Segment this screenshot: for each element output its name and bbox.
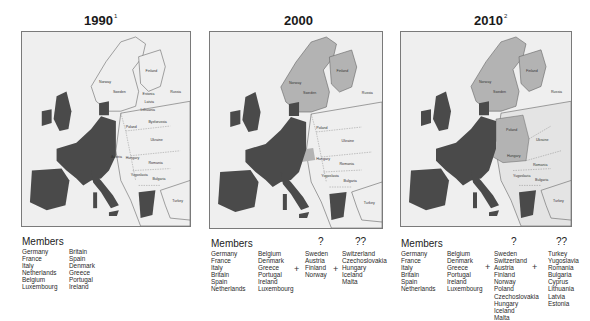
member-item: Germany bbox=[401, 250, 435, 257]
map-label-poland: Poland bbox=[316, 126, 327, 130]
member-item: Denmark bbox=[69, 262, 95, 269]
candidate-item: Latvia bbox=[548, 293, 579, 300]
member-item: Denmark bbox=[447, 257, 483, 264]
members-column-2: Belgium Denmark Greece Portugal Ireland … bbox=[447, 250, 483, 293]
denmark-member-shape bbox=[289, 102, 299, 116]
map-label-norway: Norway bbox=[479, 80, 491, 84]
panel-title-2000: 2000 bbox=[284, 13, 313, 28]
map-label-russia: Russia bbox=[170, 90, 181, 94]
group-qq-heading: ?? bbox=[556, 238, 567, 245]
plus-sign: + bbox=[485, 264, 490, 271]
candidate-item: Yugoslavia bbox=[548, 257, 579, 264]
member-item: Luxembourg bbox=[258, 285, 294, 292]
map-label-russia: Russia bbox=[362, 91, 373, 95]
member-item: Greece bbox=[258, 264, 294, 271]
map-svg-2000: Norway Sweden Finland Russia Poland Ukra… bbox=[210, 32, 382, 228]
sardinia-shape bbox=[283, 194, 287, 210]
candidate-item: Finland bbox=[494, 271, 539, 278]
denmark-member-shape bbox=[479, 101, 489, 115]
legend-2000: Members Germany France Italy Britain Spa… bbox=[211, 238, 253, 249]
candidate-item: Norway bbox=[305, 271, 328, 278]
member-item: Belgium bbox=[447, 250, 483, 257]
footnote-marker: 1 bbox=[114, 13, 117, 19]
ireland-member-shape bbox=[421, 109, 431, 126]
group-q-list: Sweden Austria Finland Norway bbox=[305, 250, 328, 278]
candidate-item: Czechoslovakia bbox=[494, 293, 539, 300]
britain-member-shape bbox=[54, 91, 72, 131]
members-column-2: Belgium Denmark Greece Portugal Ireland … bbox=[258, 250, 294, 293]
members-column-1: Germany France Italy Britain Spain Nethe… bbox=[401, 250, 435, 293]
candidate-item: Hungary bbox=[342, 264, 387, 271]
member-item: France bbox=[401, 257, 435, 264]
group-q-heading: ? bbox=[511, 238, 517, 245]
candidate-item: Estonia bbox=[548, 300, 579, 307]
year-label: 1990 bbox=[84, 13, 113, 28]
candidate-item: Sweden bbox=[494, 250, 539, 257]
member-item: Ireland bbox=[258, 278, 294, 285]
member-item: Germany bbox=[211, 250, 245, 257]
map-label-romania: Romania bbox=[148, 161, 162, 165]
member-item: Ireland bbox=[69, 283, 95, 290]
legend-1990: Members Germany France Italy Netherlands… bbox=[22, 236, 64, 247]
scandinavia-shape bbox=[471, 37, 526, 111]
candidate-item: Switzerland bbox=[342, 250, 387, 257]
denmark-member-shape bbox=[99, 101, 109, 115]
panel-title-2010: 20102 bbox=[474, 13, 507, 28]
candidate-item: Turkey bbox=[548, 250, 579, 257]
legend-2010: Members Germany France Italy Britain Spa… bbox=[401, 238, 443, 249]
candidate-item: Poland bbox=[494, 285, 539, 292]
map-label-bulgaria: Bulgaria bbox=[344, 179, 357, 183]
iberia-member-shape bbox=[30, 169, 70, 211]
candidate-item: Romania bbox=[548, 264, 579, 271]
iberia-member-shape bbox=[218, 170, 258, 212]
map-label-latvia: Latvia bbox=[145, 100, 154, 104]
map-label-hungary: Hungary bbox=[507, 154, 521, 158]
map-label-sweden: Sweden bbox=[113, 90, 126, 94]
map-svg-2010: Norway Sweden Finland Russia Poland Ukra… bbox=[401, 32, 571, 226]
member-item: Britain bbox=[211, 271, 245, 278]
candidate-item: Lithuania bbox=[548, 285, 579, 292]
map-label-yugoslavia: Yugoslavia bbox=[321, 174, 339, 178]
sicily-shape bbox=[109, 210, 119, 216]
member-item: Netherlands bbox=[22, 269, 58, 276]
map-label-austria: Austria bbox=[111, 155, 122, 159]
group-q-heading: ? bbox=[318, 238, 324, 245]
member-item: Germany bbox=[22, 248, 58, 255]
group-qq-list: Turkey Yugoslavia Romania Bulgaria Cypru… bbox=[548, 250, 579, 307]
plus-sign: + bbox=[532, 264, 537, 271]
map-label-ukraine: Ukraine bbox=[536, 138, 548, 142]
map-label-lithuania: Lithuania bbox=[141, 108, 155, 112]
member-item: Portugal bbox=[258, 271, 294, 278]
map-label-hungary: Hungary bbox=[126, 156, 140, 160]
member-item: France bbox=[211, 257, 245, 264]
member-item: Britain bbox=[69, 248, 95, 255]
group-qq-heading: ?? bbox=[355, 238, 366, 245]
member-item: Denmark bbox=[258, 257, 294, 264]
map-label-byelorussia: Byelorussia bbox=[148, 120, 166, 124]
map-label-sweden: Sweden bbox=[303, 91, 316, 95]
britain-member-shape bbox=[433, 91, 451, 131]
member-item: Luxembourg bbox=[447, 285, 483, 292]
map-label-poland: Poland bbox=[506, 128, 517, 132]
map-label-yugoslavia: Yugoslavia bbox=[131, 173, 148, 177]
year-label: 2010 bbox=[474, 13, 503, 28]
member-item: Italy bbox=[211, 264, 245, 271]
map-label-bulgaria: Bulgaria bbox=[152, 177, 165, 181]
map-label-norway: Norway bbox=[99, 80, 111, 84]
map-label-romania: Romania bbox=[340, 162, 355, 166]
sardinia-shape bbox=[93, 192, 97, 208]
scandinavia-shape bbox=[281, 37, 337, 112]
footnote-marker: 2 bbox=[504, 13, 507, 19]
map-label-sweden: Sweden bbox=[493, 90, 506, 94]
sicily-shape bbox=[299, 212, 309, 218]
candidate-item: Hungary bbox=[494, 300, 539, 307]
map-label-yugoslavia: Yugoslavia bbox=[513, 174, 530, 178]
candidate-item: Malta bbox=[494, 314, 539, 321]
candidate-item: Bulgaria bbox=[548, 271, 579, 278]
europe-map-2010: Norway Sweden Finland Russia Poland Ukra… bbox=[400, 31, 572, 227]
member-item: Italy bbox=[401, 264, 435, 271]
member-item: Ireland bbox=[447, 278, 483, 285]
map-label-ukraine: Ukraine bbox=[342, 139, 355, 143]
plus-sign: + bbox=[333, 266, 338, 273]
sardinia-shape bbox=[473, 192, 477, 208]
